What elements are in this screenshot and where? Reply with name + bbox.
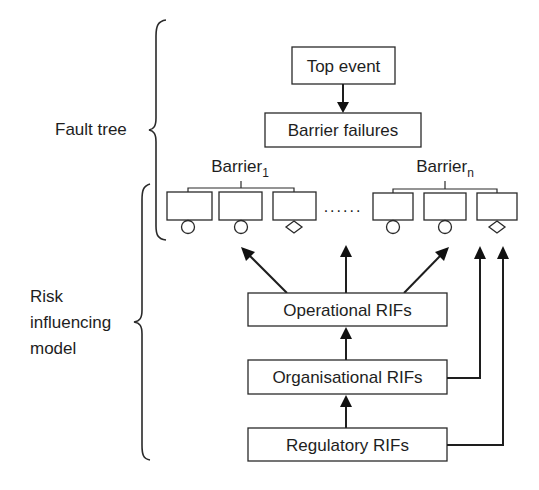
barrier-1-event-3-box <box>273 192 316 220</box>
top-event-node: Top event <box>292 47 395 84</box>
fault-tree-label: Fault tree <box>55 120 127 139</box>
arrowhead-up-icon <box>340 327 352 339</box>
arrowhead-up-icon <box>340 395 352 407</box>
basic-event-circle-icon <box>182 221 195 234</box>
regulatory-rifs-label: Regulatory RIFs <box>286 436 409 455</box>
arrowhead-up-icon <box>474 246 486 259</box>
diagram-canvas: Fault tree Risk influencing model Top ev… <box>0 0 539 490</box>
ellipsis: ...... <box>324 198 363 215</box>
arrowhead-up-icon <box>340 245 352 257</box>
risk-model-label-line-1: Risk <box>30 287 64 306</box>
barrier-failures-node: Barrier failures <box>265 113 421 147</box>
arrowhead-up-icon <box>497 246 509 259</box>
risk-model-brace <box>134 184 150 460</box>
barrier-n-event-3-box <box>477 193 517 220</box>
operational-rifs-label: Operational RIFs <box>283 301 412 320</box>
basic-event-circle-icon <box>235 221 248 234</box>
regulatory-rifs-node: Regulatory RIFs <box>248 428 447 461</box>
basic-event-circle-icon <box>387 221 400 234</box>
basic-event-circle-icon <box>439 221 452 234</box>
risk-model-label-line-3: model <box>30 339 76 358</box>
risk-model-label-line-2: influencing <box>30 313 111 332</box>
barrier-1-label: Barrier1 <box>211 157 269 180</box>
barrier-1-group: Barrier1 <box>167 157 316 234</box>
barrier-n-group: Barriern <box>373 157 517 234</box>
barrier-1-event-1-box <box>167 192 212 220</box>
barrier-n-event-1-box <box>373 193 413 220</box>
organisational-rifs-node: Organisational RIFs <box>248 360 447 394</box>
barrier-n-label: Barriern <box>416 157 474 180</box>
arrowhead-down-icon <box>337 102 349 113</box>
barrier-failures-label: Barrier failures <box>288 121 399 140</box>
top-event-label: Top event <box>307 57 381 76</box>
fault-tree-brace <box>149 20 166 240</box>
operational-to-barrier-n-arrow <box>404 255 441 293</box>
organisational-to-barrier-n-arrow <box>447 258 480 378</box>
regulatory-to-barrier-n-arrow <box>447 258 503 445</box>
operational-to-barrier-1-arrow <box>249 255 287 293</box>
undeveloped-event-diamond-icon <box>286 221 302 233</box>
operational-rifs-node: Operational RIFs <box>248 293 447 326</box>
organisational-rifs-label: Organisational RIFs <box>272 368 422 387</box>
undeveloped-event-diamond-icon <box>489 221 505 233</box>
barrier-n-event-2-box <box>424 193 466 220</box>
barrier-1-event-2-box <box>219 192 262 220</box>
